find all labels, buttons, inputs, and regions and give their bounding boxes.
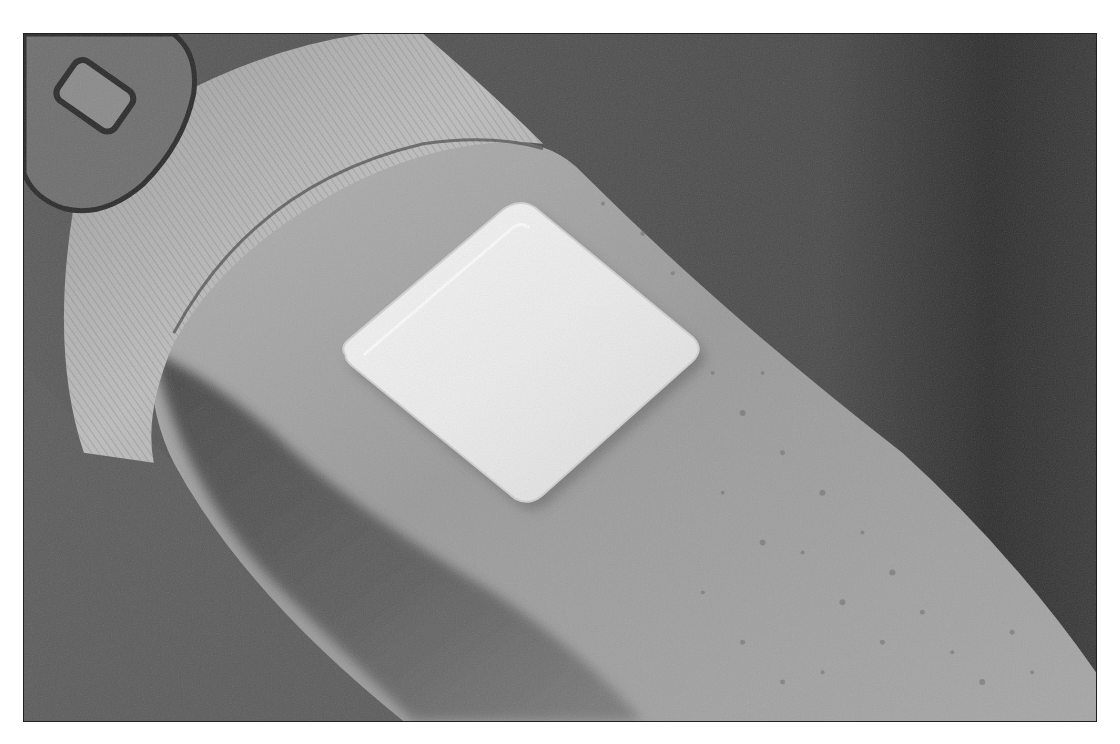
photo-frame — [23, 33, 1097, 722]
photo-image — [24, 34, 1096, 721]
grain-overlay — [24, 34, 1096, 721]
page — [0, 0, 1120, 744]
